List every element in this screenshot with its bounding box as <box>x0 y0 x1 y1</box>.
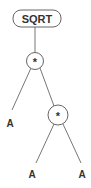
node-sqrt-label: SQRT <box>22 13 53 25</box>
node-multiply-1: * <box>27 53 44 70</box>
edge-mul1-a1 <box>12 68 31 110</box>
multiply-1-label: * <box>33 56 38 68</box>
multiply-2-label: * <box>56 110 61 122</box>
node-a-1: A <box>6 118 13 129</box>
expression-tree-diagram: SQRT * A * A A <box>0 0 91 188</box>
node-a-3: A <box>78 169 85 180</box>
edge-mul2-a3 <box>63 124 81 163</box>
node-multiply-2: * <box>48 105 68 125</box>
edge-mul2-a2 <box>36 124 54 163</box>
node-sqrt: SQRT <box>13 10 61 27</box>
node-a-2: A <box>28 169 35 180</box>
edge-mul1-mul2 <box>40 68 54 106</box>
